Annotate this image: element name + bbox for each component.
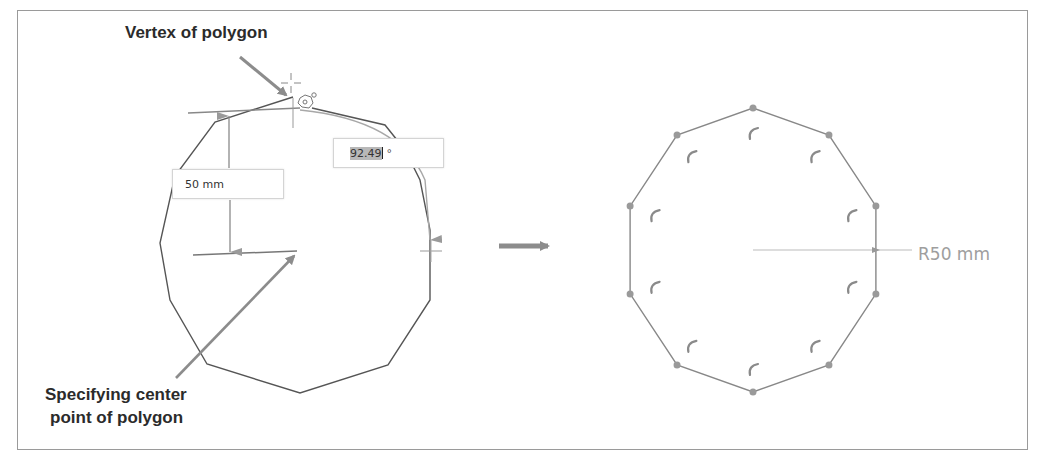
- length-input-value: 50 mm: [185, 178, 224, 191]
- vertex-callout-arrow: [240, 57, 286, 95]
- angle-constraint-icon: [688, 151, 696, 162]
- center-callout-label-line1: Specifying center: [45, 384, 187, 406]
- vertex-point: [872, 203, 879, 210]
- angle-constraint-icon: [811, 341, 819, 352]
- angle-constraint-icon: [750, 128, 758, 139]
- angle-arc-guide: [300, 110, 430, 240]
- vertex-callout-label: Vertex of polygon: [125, 22, 268, 44]
- crosshair-cursor-icon: [281, 73, 301, 93]
- vertex-point: [627, 203, 634, 210]
- vertex-point: [825, 361, 832, 368]
- center-callout-arrow: [176, 256, 294, 378]
- angle-unit: °: [387, 147, 393, 160]
- vertex-point: [627, 290, 634, 297]
- vertex-point: [674, 361, 681, 368]
- angle-constraint-icon: [811, 151, 819, 162]
- vertex-point: [825, 132, 832, 139]
- angle-constraint-icon: [688, 341, 696, 352]
- angle-constraint-icon: [651, 282, 659, 293]
- vertex-point: [750, 389, 757, 396]
- text-caret: [382, 147, 383, 159]
- center-callout-label-line2: point of polygon: [50, 407, 183, 429]
- vertex-point: [674, 132, 681, 139]
- angle-input[interactable]: 92.49°: [333, 138, 444, 168]
- angle-constraint-icon: [651, 210, 659, 221]
- angle-input-value: 92.49: [350, 147, 382, 160]
- length-input[interactable]: 50 mm: [172, 169, 284, 199]
- radius-dimension-label: R50 mm: [918, 244, 990, 264]
- center-reference-line: [193, 251, 297, 255]
- polygon-tool-icon: [298, 93, 316, 108]
- angle-constraint-icon: [848, 282, 856, 293]
- angle-constraint-icon: [848, 210, 856, 221]
- vertex-point: [750, 105, 757, 112]
- angle-constraint-icon: [750, 364, 758, 375]
- vertex-point: [872, 290, 879, 297]
